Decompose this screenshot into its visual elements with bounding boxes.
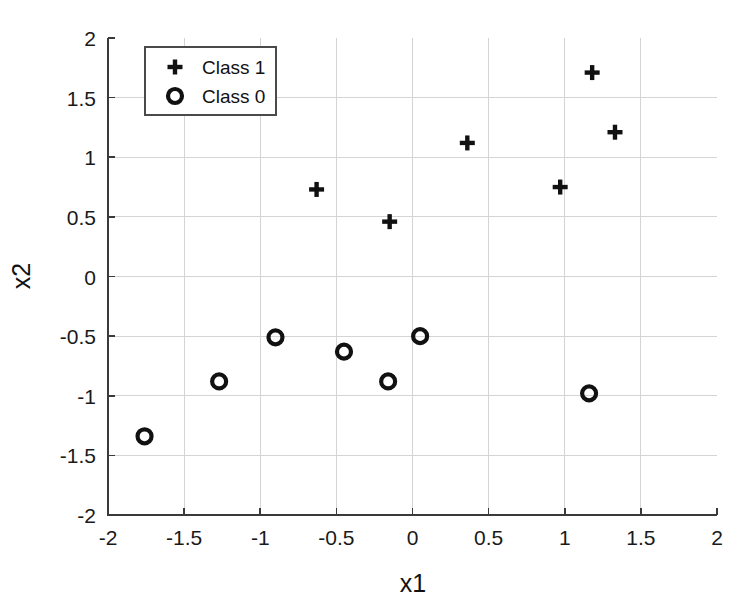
y-tick-label: -2 [77, 504, 96, 527]
y-tick-label: 0 [84, 266, 96, 289]
x-tick-label: 1 [559, 526, 571, 549]
x-tick-label: 2 [711, 526, 723, 549]
data-point-circle [337, 345, 351, 359]
y-tick-label: -1 [77, 385, 96, 408]
data-point-plus [607, 125, 622, 140]
scatter-plot-figure: -2-1.5-1-0.500.511.52-2-1.5-1-0.500.511.… [0, 0, 755, 605]
y-tick-label: 2 [84, 27, 96, 50]
data-point-plus [585, 65, 600, 80]
x-tick-label: -2 [99, 526, 118, 549]
x-tick-label: 0 [407, 526, 419, 549]
x-tick-label: -1 [251, 526, 270, 549]
y-tick-label: -0.5 [60, 325, 96, 348]
series-class-1 [309, 65, 622, 229]
y-tick-label: -1.5 [60, 444, 96, 467]
x-tick-label: 1.5 [626, 526, 655, 549]
data-points [138, 65, 623, 443]
x-tick-label: 0.5 [474, 526, 503, 549]
data-point-circle [212, 374, 226, 388]
y-tick-label: 1.5 [67, 87, 96, 110]
data-point-circle [381, 374, 395, 388]
data-point-circle [138, 429, 152, 443]
y-tick-label: 0.5 [67, 206, 96, 229]
y-tick-label: 1 [84, 146, 96, 169]
legend: Class 1Class 0 [145, 47, 276, 115]
plot-canvas: -2-1.5-1-0.500.511.52-2-1.5-1-0.500.511.… [0, 0, 755, 605]
y-axis-title: x2 [7, 263, 35, 289]
series-class-0 [138, 329, 597, 443]
data-point-plus [460, 135, 475, 150]
x-tick-label: -1.5 [166, 526, 202, 549]
data-point-circle [582, 386, 596, 400]
x-tick-label: -0.5 [318, 526, 354, 549]
data-point-plus [553, 180, 568, 195]
legend-label: Class 1 [202, 57, 265, 78]
data-point-circle [268, 330, 282, 344]
legend-label: Class 0 [202, 86, 265, 107]
x-axis-title: x1 [400, 569, 426, 597]
data-point-plus [309, 182, 324, 197]
